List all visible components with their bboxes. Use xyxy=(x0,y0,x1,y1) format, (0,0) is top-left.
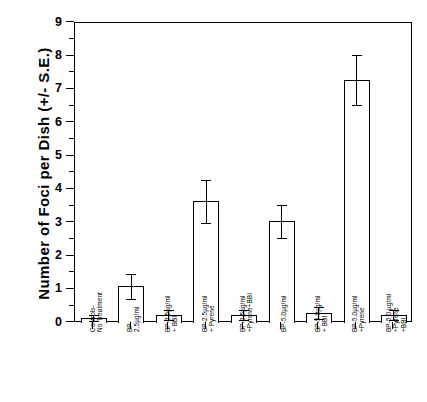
y-tick-major xyxy=(66,88,74,89)
y-tick-label: 9 xyxy=(38,16,62,29)
y-tick-label: 4 xyxy=(38,182,62,195)
x-tick-label: BP-5.0µg/ml +Pyrene xyxy=(351,262,366,332)
y-tick-major xyxy=(66,188,74,189)
x-tick-label: BP- 2.5µg/ml xyxy=(126,262,141,332)
error-bar-stem xyxy=(356,55,357,105)
y-tick-label: 1 xyxy=(38,282,62,295)
y-tick-major xyxy=(66,155,74,156)
y-tick-label: 7 xyxy=(38,82,62,95)
error-bar-cap-upper xyxy=(352,55,362,56)
y-tick-major xyxy=(66,21,74,22)
bar-chart: Number of Foci per Dish (+/- S.E.) 01234… xyxy=(0,0,427,402)
y-tick-major xyxy=(66,255,74,256)
x-tick-label: BP-5.0µg/ml + BBI xyxy=(314,262,329,332)
error-bar-stem xyxy=(206,180,207,223)
error-bar-cap-lower xyxy=(352,105,362,106)
y-tick-label: 2 xyxy=(38,249,62,262)
y-tick-major xyxy=(66,321,74,322)
x-tick-label: BP-2.5µg/ml +Pyrene+BBI xyxy=(239,262,254,332)
error-bar-cap-lower xyxy=(201,223,211,224)
x-tick-label: BP-2.5µg/ml + BBI xyxy=(164,262,179,332)
y-tick-label: 3 xyxy=(38,216,62,229)
y-tick-label: 0 xyxy=(38,316,62,329)
x-tick-label: BP-2.5µg/ml + Pyrene xyxy=(201,262,216,332)
x-tick-label: BP-5.0µg/ml xyxy=(280,262,287,332)
error-bar-cap-lower xyxy=(277,238,287,239)
y-tick-major xyxy=(66,121,74,122)
y-tick-label: 6 xyxy=(38,116,62,129)
x-tick-label: BP-5.0 µg/ml +Pyrene +BBI xyxy=(385,262,407,332)
y-tick-major xyxy=(66,55,74,56)
error-bar-stem xyxy=(281,205,282,238)
error-bar-cap-upper xyxy=(201,180,211,181)
y-tick-major xyxy=(66,288,74,289)
error-bar-cap-upper xyxy=(277,205,287,206)
y-tick-label: 8 xyxy=(38,49,62,62)
x-tick-label: Controls- No Treatment xyxy=(89,262,104,332)
y-axis-title: Number of Foci per Dish (+/- S.E.) xyxy=(35,24,52,324)
y-tick-label: 5 xyxy=(38,149,62,162)
y-tick-major xyxy=(66,221,74,222)
